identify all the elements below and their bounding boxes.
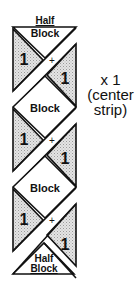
unit-3-plus: + [49,215,55,226]
unit-3-left-label: 1 [20,211,29,228]
unit-1-left-label: 1 [20,51,29,68]
unit-1-right-label: 1 [61,70,70,87]
unit-2-right-label: 1 [61,150,70,167]
bottom-half-label-2: Block [30,263,58,274]
quantity-line-1: x 1 [84,72,137,87]
quilt-strip-diagram: Half Block 1 1 + Block 1 1 + Block 1 1 +… [0,0,137,297]
block-label-2: Block [30,182,61,194]
block-label-1: Block [30,102,61,114]
top-half-label-1: Half [36,15,56,26]
unit-2-left-label: 1 [20,131,29,148]
top-half-label-2: Block [31,27,60,39]
quantity-line-2: (center [84,87,137,102]
unit-2-plus: + [49,135,55,146]
unit-3-right-label: 1 [61,236,70,253]
quantity-line-3: strip) [84,102,137,117]
unit-1-plus: + [49,55,55,66]
quantity-note: x 1 (center strip) [84,72,137,117]
